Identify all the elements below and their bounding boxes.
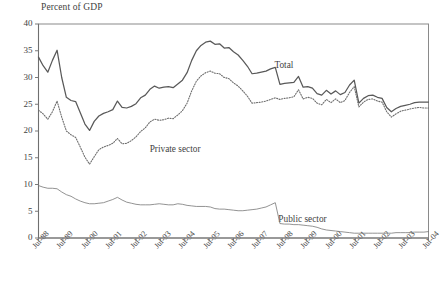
- plot-frame: [39, 24, 429, 238]
- series-line-total: [39, 41, 429, 130]
- plot-area: [0, 0, 443, 285]
- plot-frame-box: [39, 24, 429, 238]
- series-line-public-sector: [39, 186, 429, 234]
- series-lines: [39, 41, 429, 233]
- chart-container: Percent of GDP 0510152025303540 Jul-88Ju…: [0, 0, 443, 285]
